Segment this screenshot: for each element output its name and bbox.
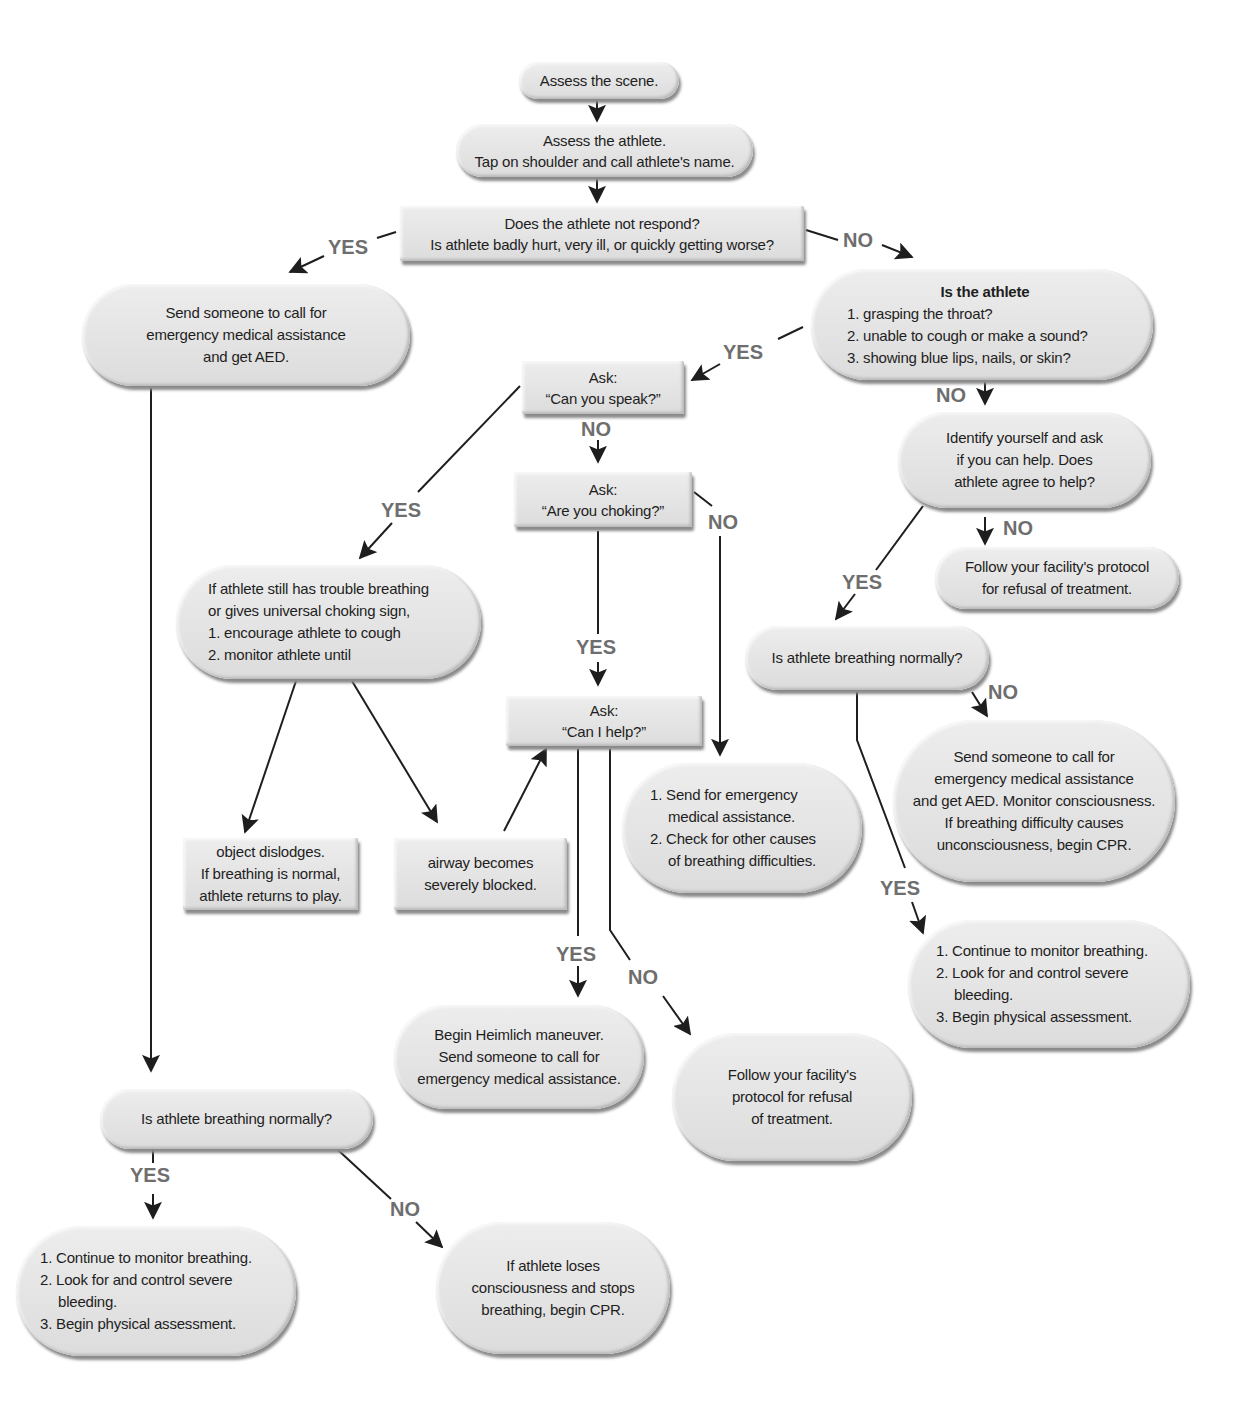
node-text: 1. grasping the throat?	[847, 303, 993, 325]
node-text: Does the athlete not respond?	[504, 213, 699, 234]
node-not-respond: Does the athlete not respond? Is athlete…	[400, 206, 804, 261]
node-text: of breathing difficulties.	[650, 850, 816, 872]
node-text: Follow your facility's protocol	[965, 556, 1149, 578]
node-text: for refusal of treatment.	[982, 578, 1132, 600]
node-text: medical assistance.	[650, 806, 795, 828]
node-text: or gives universal choking sign,	[208, 600, 410, 622]
node-object-dislodges: object dislodges. If breathing is normal…	[183, 838, 358, 910]
node-text: 3. Begin physical assessment.	[936, 1006, 1132, 1028]
edge-label-no: NO	[581, 418, 611, 441]
node-text: Begin Heimlich maneuver.	[434, 1024, 603, 1046]
node-assess-scene: Assess the scene.	[519, 62, 679, 99]
edge-label-yes: YES	[130, 1164, 170, 1187]
edge-label-yes: YES	[556, 943, 596, 966]
node-text: 1. encourage athlete to cough	[208, 622, 401, 644]
node-is-athlete: Is the athlete 1. grasping the throat? 2…	[811, 269, 1153, 380]
node-continue-monitoring-left: 1. Continue to monitor breathing. 2. Loo…	[16, 1226, 296, 1356]
node-send-aed: Send someone to call for emergency medic…	[82, 284, 410, 386]
node-continue-monitoring-right: 1. Continue to monitor breathing. 2. Loo…	[908, 920, 1190, 1048]
node-are-you-choking: Ask: “Are you choking?”	[514, 472, 692, 527]
node-text: bleeding.	[40, 1291, 117, 1313]
node-text: athlete returns to play.	[199, 885, 342, 907]
edge-label-yes: YES	[576, 636, 616, 659]
node-text: protocol for refusal	[732, 1086, 852, 1108]
node-text: 2. Check for other causes	[650, 828, 816, 850]
node-text: emergency medical assistance	[146, 324, 346, 346]
edge-label-no: NO	[1003, 517, 1033, 540]
edge-label-yes: YES	[880, 877, 920, 900]
node-text: Follow your facility's	[728, 1064, 857, 1086]
node-text: airway becomes	[428, 852, 534, 874]
node-text: breathing, begin CPR.	[481, 1299, 624, 1321]
edge-label-no: NO	[390, 1198, 420, 1221]
edge-label-yes: YES	[723, 341, 763, 364]
node-text: Send someone to call for	[165, 302, 326, 324]
node-text: Is athlete breathing normally?	[772, 647, 963, 669]
node-text: Send someone to call for	[953, 746, 1114, 768]
node-text: 2. Look for and control severe	[40, 1269, 232, 1291]
node-text: Ask:	[589, 479, 617, 500]
node-text: severely blocked.	[424, 874, 537, 896]
node-text: 2. Look for and control severe	[936, 962, 1128, 984]
node-text: “Can you speak?”	[545, 388, 660, 409]
node-text: if you can help. Does	[957, 449, 1093, 471]
node-text: 1. Send for emergency	[650, 784, 798, 806]
node-identify-yourself: Identify yourself and ask if you can hel…	[898, 412, 1151, 508]
node-text: Ask:	[589, 367, 617, 388]
node-text: consciousness and stops	[471, 1277, 634, 1299]
edge-label-yes: YES	[381, 499, 421, 522]
node-breathing-normally-left: Is athlete breathing normally?	[100, 1089, 373, 1149]
node-text: If athlete still has trouble breathing	[208, 578, 429, 600]
node-title: Is the athlete	[941, 281, 1030, 303]
node-loses-consciousness: If athlete loses consciousness and stops…	[436, 1222, 670, 1354]
node-text: 1. Continue to monitor breathing.	[40, 1247, 252, 1269]
node-text: 3. showing blue lips, nails, or skin?	[847, 347, 1071, 369]
edge-label-no: NO	[708, 511, 738, 534]
node-airway-blocked: airway becomes severely blocked.	[394, 838, 567, 910]
node-text: Identify yourself and ask	[946, 427, 1103, 449]
node-can-you-speak: Ask: “Can you speak?”	[522, 361, 684, 414]
node-text: athlete agree to help?	[954, 471, 1095, 493]
node-text: object dislodges.	[216, 841, 324, 863]
node-text: 2. monitor athlete until	[208, 644, 351, 666]
node-text: bleeding.	[936, 984, 1013, 1006]
edge-label-no: NO	[843, 229, 873, 252]
node-text: If athlete loses	[506, 1255, 600, 1277]
node-text: of treatment.	[751, 1108, 833, 1130]
node-text: emergency medical assistance	[934, 768, 1134, 790]
node-send-emergency-check: 1. Send for emergency medical assistance…	[622, 763, 862, 893]
node-text: Tap on shoulder and call athlete's name.	[474, 151, 734, 172]
node-text: 3. Begin physical assessment.	[40, 1313, 236, 1335]
node-text: and get AED.	[203, 346, 289, 368]
node-text: emergency medical assistance.	[417, 1068, 620, 1090]
node-text: 1. Continue to monitor breathing.	[936, 940, 1148, 962]
node-send-aed-monitor: Send someone to call for emergency medic…	[893, 720, 1175, 882]
node-text: Send someone to call for	[438, 1046, 599, 1068]
edge-label-yes: YES	[328, 236, 368, 259]
node-text: “Can I help?”	[562, 721, 646, 742]
node-heimlich: Begin Heimlich maneuver. Send someone to…	[394, 1005, 644, 1109]
node-text: If breathing is normal,	[201, 863, 341, 885]
node-refusal-center: Follow your facility's protocol for refu…	[672, 1033, 912, 1161]
edge-label-yes: YES	[842, 571, 882, 594]
node-text: Ask:	[590, 700, 618, 721]
node-text: Is athlete breathing normally?	[141, 1108, 332, 1130]
node-text: unconsciousness, begin CPR.	[937, 834, 1132, 856]
node-text: 2. unable to cough or make a sound?	[847, 325, 1088, 347]
node-refusal-right: Follow your facility's protocol for refu…	[935, 547, 1179, 609]
node-can-i-help: Ask: “Can I help?”	[506, 696, 702, 746]
edge-label-no: NO	[936, 384, 966, 407]
edge-label-no: NO	[628, 966, 658, 989]
node-text: and get AED. Monitor consciousness.	[913, 790, 1155, 812]
node-trouble-breathing: If athlete still has trouble breathing o…	[176, 565, 481, 679]
edge-label-no: NO	[988, 681, 1018, 704]
node-assess-athlete: Assess the athlete. Tap on shoulder and …	[456, 124, 753, 177]
node-breathing-normally-right: Is athlete breathing normally?	[745, 626, 989, 690]
node-text: Assess the athlete.	[543, 130, 666, 151]
node-text: “Are you choking?”	[542, 500, 664, 521]
node-text: Assess the scene.	[540, 70, 658, 92]
node-text: Is athlete badly hurt, very ill, or quic…	[430, 234, 774, 255]
node-text: If breathing difficulty causes	[945, 812, 1124, 834]
